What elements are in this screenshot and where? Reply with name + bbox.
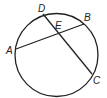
chord-dc <box>43 14 92 74</box>
label-e: E <box>55 20 62 31</box>
chord-ab <box>16 24 84 49</box>
label-d: D <box>38 3 45 14</box>
diagram-canvas: D E B A C <box>0 0 107 98</box>
label-a: A <box>5 45 13 56</box>
label-c: C <box>93 75 101 86</box>
label-b: B <box>84 12 91 23</box>
